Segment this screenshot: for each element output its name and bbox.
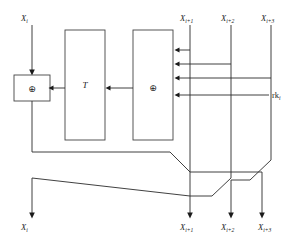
label-input-x-i-plus-2: Xi+2 — [220, 13, 235, 24]
label-output-x-i: Xi — [20, 222, 28, 233]
left-xor-symbol: ⊕ — [28, 84, 36, 94]
arrowhead-out-x-i-plus-3 — [259, 213, 265, 219]
label-input-x-i-plus-1: Xi+1 — [179, 13, 194, 24]
arrowhead-out-x-i-plus-1 — [187, 213, 193, 219]
label-output-x-i-plus-1: Xi+1 — [179, 222, 194, 233]
arrowhead-right-xor-to-t — [106, 85, 111, 90]
bottom-output-labels: Xi Xi+1 Xi+2 Xi+3 — [20, 222, 272, 233]
arrowhead-feed-1 — [175, 48, 180, 53]
arrowhead-out-x-i — [29, 213, 35, 219]
wire-x-i-plus-1-to-output-x-i — [32, 178, 190, 216]
label-output-x-i-plus-2: Xi+2 — [220, 222, 235, 233]
arrowhead-feed-2 — [175, 62, 180, 67]
arrowhead-feed-rk — [175, 93, 180, 98]
diagram-canvas: Xi Xi+1 Xi+2 Xi+3 rki ⊕ T ⊕ — [0, 0, 296, 233]
wire-x-i-plus-3-to-output-x-i-plus-2 — [231, 160, 271, 216]
label-input-x-i: Xi — [20, 13, 28, 24]
wire-x-i-plus-2-to-output-x-i-plus-1 — [190, 178, 231, 216]
label-output-x-i-plus-3: Xi+3 — [257, 222, 272, 233]
label-round-key-rk-i: rki — [272, 90, 281, 101]
cipher-round-diagram: Xi Xi+1 Xi+2 Xi+3 rki ⊕ T ⊕ — [0, 0, 296, 233]
top-input-labels: Xi Xi+1 Xi+2 Xi+3 — [20, 13, 275, 24]
right-xor-symbol: ⊕ — [149, 83, 157, 93]
arrowhead-out-x-i-plus-2 — [228, 213, 234, 219]
arrowhead-feed-3 — [175, 76, 180, 81]
label-input-x-i-plus-3: Xi+3 — [260, 13, 275, 24]
